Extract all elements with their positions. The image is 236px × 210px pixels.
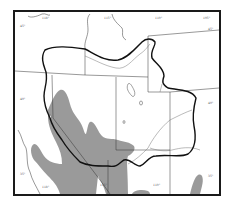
- svg-text:45°: 45°: [20, 24, 26, 28]
- svg-text:105°: 105°: [203, 16, 211, 20]
- svg-text:115°: 115°: [104, 16, 112, 20]
- svg-text:118°: 118°: [42, 185, 50, 189]
- svg-text:40°: 40°: [20, 97, 26, 101]
- svg-text:35°: 35°: [20, 172, 26, 176]
- svg-text:115°: 115°: [100, 183, 108, 187]
- svg-text:35°: 35°: [208, 174, 214, 178]
- svg-text:110°: 110°: [153, 183, 161, 187]
- map-canvas: 118° 115° 110° 105° 45° 40° 35° 45° 40° …: [0, 0, 236, 210]
- svg-text:45°: 45°: [208, 27, 214, 31]
- svg-text:40°: 40°: [208, 101, 214, 105]
- svg-text:110°: 110°: [155, 16, 163, 20]
- svg-text:118°: 118°: [42, 16, 50, 20]
